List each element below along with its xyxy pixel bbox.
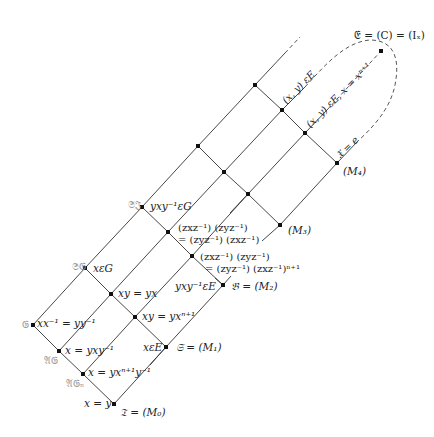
- node-name-AG: 𝔄𝔊: [44, 355, 58, 366]
- node-equation-M1: xεE: [143, 342, 162, 353]
- node-name-M2: 𝔅 = (M₂): [231, 281, 278, 292]
- node-equation-conjugate-1b: = (zyz⁻¹) (zxz⁻¹): [178, 234, 259, 245]
- node-equation-commutative: xy = yx: [118, 288, 157, 299]
- node-equation-AGn: x = yxⁿ⁺¹y⁻¹: [88, 367, 151, 378]
- node-name-SG: 𝔖𝔊: [72, 261, 86, 272]
- node-equation-AG: x = yxy⁻¹: [65, 345, 114, 356]
- node-equation-conjugate-2b: = (zyz⁻¹) (zxz⁻¹)ⁿ⁺¹: [205, 263, 300, 274]
- closure-arc: [305, 40, 397, 142]
- node-name-M1: 𝔖 = (M₁): [176, 342, 222, 353]
- node-equation-n-commutative: xy = yxⁿ⁺¹: [142, 311, 195, 322]
- node-name-T: 𝔗 = (M₀): [120, 407, 166, 418]
- node-equation-conjugate-2a: (zxz⁻¹) (zyz⁻¹): [200, 251, 270, 262]
- node-name-M3: (M₃): [288, 225, 311, 236]
- node-equation-SI: yxy⁻¹εG: [150, 201, 192, 212]
- node-name-AGn: 𝔄𝔊ₙ: [66, 378, 84, 389]
- node-equation-G: xx⁻¹ = yy⁻¹: [37, 318, 96, 329]
- node-equation-conjugate-1a: (zxz⁻¹) (zyz⁻¹): [178, 222, 248, 233]
- node-name-G: 𝔊: [22, 319, 29, 330]
- node-equation-M2: yxy⁻¹εE: [175, 281, 216, 292]
- node-name-SI: 𝔖𝔍: [128, 199, 141, 210]
- node-equation-T: x = y: [84, 398, 111, 409]
- node-name-M4: (M₄): [343, 166, 366, 177]
- node-name-C: 𝔈 = (C) = (Iₓ): [354, 30, 425, 41]
- node-equation-SG: xεG: [93, 263, 113, 274]
